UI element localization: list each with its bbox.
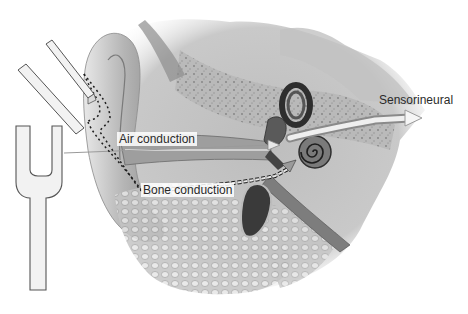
- bone-conduction-label: Bone conduction: [141, 183, 234, 197]
- cochlea: [299, 136, 331, 168]
- tuning-fork-angled: [18, 40, 96, 134]
- sensorineural-label: Sensorineural: [379, 93, 453, 107]
- anatomy-illustration: [0, 0, 468, 314]
- air-conduction-label: Air conduction: [117, 132, 197, 146]
- tuning-fork-upright: [16, 126, 62, 290]
- ear-conduction-diagram: Air conduction Bone conduction Sensorine…: [0, 0, 468, 314]
